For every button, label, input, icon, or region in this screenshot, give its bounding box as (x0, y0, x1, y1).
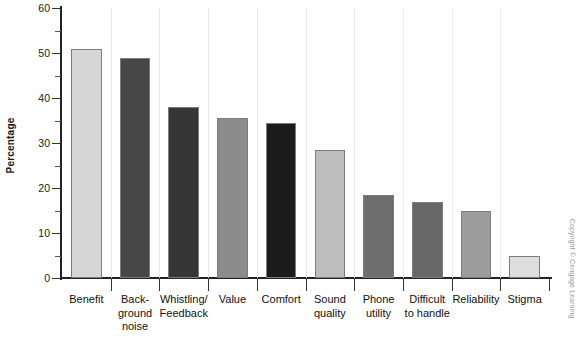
category-gridline (208, 8, 209, 278)
bar (315, 150, 346, 278)
bar (168, 107, 199, 278)
x-axis-category-label: Soundquality (306, 293, 355, 320)
y-axis-tick-label: 50 (4, 47, 50, 59)
x-axis-category-label-line: Phone (354, 293, 403, 307)
x-axis-category-label: Reliability (452, 293, 501, 307)
x-axis-category-label-line: utility (354, 307, 403, 321)
y-axis-tick-label: 20 (4, 182, 50, 194)
category-gridline (306, 8, 307, 278)
x-axis-category-label-line: noise (111, 320, 160, 334)
x-axis-category-label-line: ground (111, 307, 160, 321)
x-axis-tick (452, 279, 453, 291)
x-axis-category-label: Whistling/Feedback (159, 293, 208, 320)
x-axis-category-label: Back-groundnoise (111, 293, 160, 334)
x-axis-category-label: Value (208, 293, 257, 307)
y-axis-tick-minor (55, 166, 61, 167)
category-gridline (159, 8, 160, 278)
category-gridline (354, 8, 355, 278)
x-axis-category-label-line: Whistling/ (159, 293, 208, 307)
bar (461, 211, 492, 279)
y-axis-tick-major (52, 53, 61, 54)
y-axis-tick-minor (55, 256, 61, 257)
bar (71, 49, 102, 279)
y-axis-tick-label: 30 (4, 137, 50, 149)
x-axis-category-label-line: Difficult (403, 293, 452, 307)
x-axis-tick (257, 279, 258, 291)
y-axis-tick-label: 10 (4, 227, 50, 239)
x-axis-category-label: Comfort (257, 293, 306, 307)
x-axis-category-label: Stigma (500, 293, 549, 307)
x-axis-category-label-line: Back- (111, 293, 160, 307)
x-axis-category-label-line: Value (208, 293, 257, 307)
x-axis-category-label-line: Reliability (452, 293, 501, 307)
y-axis-tick-major (52, 188, 61, 189)
y-axis-tick-major (52, 143, 61, 144)
x-axis-category-label-line: to handle (403, 307, 452, 321)
y-axis-tick-label: 60 (4, 2, 50, 14)
category-gridline (257, 8, 258, 278)
category-gridline (452, 8, 453, 278)
y-axis-tick-major (52, 233, 61, 234)
y-axis-tick-major (52, 278, 61, 279)
bar (363, 195, 394, 278)
bar-chart: Percentage 0102030405060 BenefitBack-gro… (0, 0, 581, 347)
category-gridline (111, 8, 112, 278)
x-axis-category-label-line: quality (306, 307, 355, 321)
bar (217, 118, 248, 278)
x-axis-ticks-and-labels: BenefitBack-groundnoiseWhistling/Feedbac… (0, 279, 581, 347)
x-axis-category-label: Phoneutility (354, 293, 403, 320)
x-axis-tick (159, 279, 160, 291)
x-axis-category-label-line: Sound (306, 293, 355, 307)
x-axis-tick (306, 279, 307, 291)
x-axis-tick (500, 279, 501, 291)
x-axis-tick (549, 279, 550, 291)
y-axis-tick-minor (55, 121, 61, 122)
copyright-text: Copyright © Cengage Learning (570, 218, 577, 317)
category-gridline (403, 8, 404, 278)
x-axis-category-label-line: Comfort (257, 293, 306, 307)
y-axis-tick-major (52, 8, 61, 9)
x-axis-tick (208, 279, 209, 291)
x-axis-category-label-line: Benefit (62, 293, 111, 307)
bar (509, 256, 540, 279)
plot-area (62, 8, 549, 278)
x-axis-category-label-line: Feedback (159, 307, 208, 321)
y-axis-tick-minor (55, 211, 61, 212)
y-axis-tick-label: 40 (4, 92, 50, 104)
bar (120, 58, 151, 279)
x-axis-category-label: Difficultto handle (403, 293, 452, 320)
x-axis-tick (403, 279, 404, 291)
x-axis-tick (111, 279, 112, 291)
y-axis-tick-minor (55, 76, 61, 77)
x-axis-category-label: Benefit (62, 293, 111, 307)
copyright-credit: Copyright © Cengage Learning (566, 208, 580, 328)
bar (266, 123, 297, 278)
y-axis-tick-minor (55, 31, 61, 32)
category-gridline (500, 8, 501, 278)
x-axis-category-label-line: Stigma (500, 293, 549, 307)
x-axis-tick (354, 279, 355, 291)
y-axis-tick-major (52, 98, 61, 99)
bar (412, 202, 443, 279)
